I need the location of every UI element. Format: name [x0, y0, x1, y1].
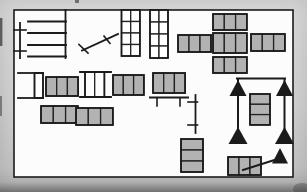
top-grid-b-cell — [159, 10, 168, 22]
cluster-left-block-cell — [178, 35, 189, 52]
longrow-left-block-cell — [53, 106, 65, 123]
top-grid-a-cell — [131, 22, 140, 34]
longrow-right-block-cell — [88, 108, 100, 125]
top-grid-b-cell — [159, 22, 168, 34]
cluster-center-block-cell — [213, 33, 224, 53]
top-grid-a-cell — [122, 10, 131, 22]
longrow-right-block-cell — [76, 108, 88, 125]
top-grid-b-cell — [159, 46, 168, 58]
arrow-target-block-cell — [239, 157, 250, 175]
cluster-bottom-block-cell — [213, 57, 224, 73]
goal-middle-stack-cell — [250, 104, 270, 114]
cluster-bottom-block-cell — [224, 57, 235, 73]
goal-middle-stack-cell — [250, 94, 270, 104]
top-grid-a-cell — [122, 22, 131, 34]
midrow-block-a-cell — [46, 77, 57, 96]
midrow-block-c-cell — [174, 73, 185, 93]
bracket-box-cell — [35, 73, 44, 98]
top-grid-b-cell — [150, 22, 159, 34]
top-edge-mark — [75, 0, 79, 3]
corner-smudge — [293, 183, 307, 192]
cluster-center-block-cell — [236, 33, 247, 53]
top-grid-b-cell — [150, 10, 159, 22]
cluster-top-block-cell — [224, 14, 235, 30]
midrow-block-a-cell — [57, 77, 68, 96]
midrow-block-a-cell — [67, 77, 78, 96]
cluster-bottom-block-cell — [236, 57, 247, 73]
cluster-left-block-cell — [189, 35, 200, 52]
double-white-box-cell — [95, 72, 105, 97]
center-bottom-stack-cell — [181, 139, 203, 150]
goal-middle-stack-cell — [250, 115, 270, 125]
top-grid-a-cell — [122, 33, 131, 45]
midrow-block-b-cell — [123, 75, 133, 95]
center-bottom-stack-cell — [181, 150, 203, 161]
midrow-block-c-cell — [153, 73, 164, 93]
left-edge-mark-2 — [0, 96, 2, 116]
floor-plan-diagram — [0, 0, 307, 192]
cluster-right-block-cell — [274, 34, 285, 51]
midrow-block-c-cell — [164, 73, 175, 93]
longrow-right-block-cell — [101, 108, 113, 125]
left-edge-mark-1 — [0, 18, 2, 46]
cluster-left-block-cell — [200, 35, 211, 52]
top-grid-b-cell — [150, 34, 159, 46]
top-grid-b-cell — [150, 46, 159, 58]
midrow-block-b-cell — [113, 75, 123, 95]
top-grid-a-cell — [131, 33, 140, 45]
arrow-target-block-cell — [228, 157, 239, 175]
cluster-right-block-cell — [251, 34, 262, 51]
cluster-top-block-cell — [213, 14, 224, 30]
center-bottom-stack-cell — [181, 161, 203, 172]
top-grid-b-cell — [159, 34, 168, 46]
longrow-left-block-cell — [41, 106, 53, 123]
cluster-right-block-cell — [262, 34, 273, 51]
photo-background — [0, 0, 307, 192]
cluster-top-block-cell — [236, 14, 247, 30]
top-grid-a-cell — [131, 45, 140, 57]
double-white-box-cell — [85, 72, 95, 97]
top-grid-a-cell — [122, 45, 131, 57]
cluster-center-block-cell — [224, 33, 235, 53]
midrow-block-b-cell — [134, 75, 144, 95]
top-grid-a-cell — [131, 10, 140, 22]
